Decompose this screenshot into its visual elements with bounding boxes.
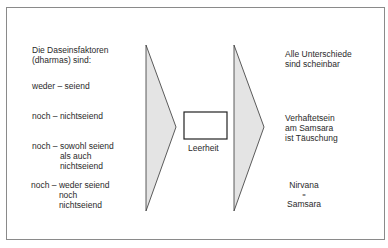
emptiness-box — [184, 112, 227, 139]
left-heading: Die Daseinsfaktoren (dharmas) sind: — [32, 45, 109, 65]
left-arrow-triangle — [146, 45, 176, 211]
item-prefix: noch – — [32, 111, 60, 121]
item-prefix: noch – — [31, 180, 59, 190]
right-item-1: Alle Unterschiede sind scheinbar — [285, 49, 352, 69]
emptiness-label: Leerheit — [188, 143, 219, 153]
item-prefix: weder – — [32, 81, 65, 91]
left-item-1: weder – seiend — [32, 81, 90, 91]
left-item-4: noch – weder seiend noch nichtseiend — [31, 180, 109, 210]
item-prefix: noch – — [32, 141, 60, 151]
left-item-3: noch – sowohl seiend als auch nichtseien… — [32, 141, 114, 171]
item-text: seiend — [65, 81, 90, 91]
right-item-2: Verhaftetsein am Samsara ist Täuschung — [285, 113, 338, 143]
item-text: nichtseiend — [60, 111, 103, 121]
equation-top: Nirvana — [284, 180, 324, 190]
item-text: sowohl seiend als auch nichtseiend — [60, 141, 114, 171]
equation-bottom: Samsara — [284, 199, 324, 209]
left-item-2: noch – nichtseiend — [32, 111, 103, 121]
item-text: weder seiend noch nichtseiend — [59, 180, 110, 210]
right-arrow-triangle — [234, 45, 264, 211]
